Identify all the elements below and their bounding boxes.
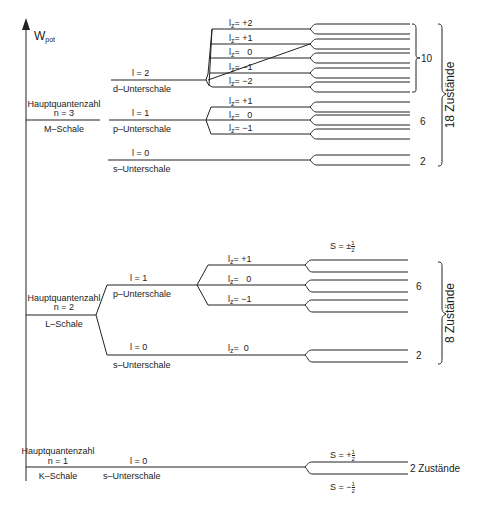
m-spin-forks: [310, 24, 410, 165]
l-p-count: 6: [416, 282, 422, 292]
bracket-d: [412, 24, 420, 92]
m-d-l: l = 2: [132, 68, 149, 78]
lz-label: lz= −1: [228, 294, 252, 307]
lz-label: lz= +1: [229, 33, 253, 46]
l-shell-n: n = 2: [16, 302, 112, 312]
lz-label: lz= −2: [229, 76, 253, 89]
m-s-name: s–Unterschale: [113, 164, 171, 174]
k-shell-name: K–Schale: [10, 471, 106, 481]
m-d-count: 10: [421, 54, 432, 64]
k-spin-down: S = −12: [330, 481, 355, 494]
l-s-l: l = 0: [130, 342, 147, 352]
lz-label: lz= +1: [228, 254, 252, 267]
l-p-l: l = 1: [130, 273, 147, 283]
m-s-count: 2: [420, 157, 426, 167]
m-d-name: d–Unterschale: [113, 84, 171, 94]
l-s-count: 2: [416, 351, 422, 361]
k-shell-title: Hauptquantenzahl: [10, 446, 106, 456]
lz-label: lz= 0: [228, 274, 251, 287]
axis-arrow-icon: [22, 18, 30, 30]
lz-label: lz= +1: [229, 96, 253, 109]
m-s-l: l = 0: [132, 148, 149, 158]
axis-label: Wpot: [34, 29, 55, 47]
lz-label: lz= 0: [228, 343, 249, 356]
l-spin-label: S = ±12: [330, 240, 355, 253]
m-shell-n: n = 3: [16, 108, 112, 118]
k-s-name: s–Unterschale: [103, 471, 161, 481]
l-s-name: s–Unterschale: [113, 360, 171, 370]
m-p-count: 6: [420, 117, 426, 127]
m-p-name: p–Unterschale: [113, 124, 171, 134]
k-shell-n: n = 1: [10, 456, 106, 466]
l-p-name: p–Unterschale: [113, 289, 171, 299]
k-spin-up: S = +12: [330, 449, 355, 462]
k-s-l: l = 0: [130, 456, 147, 466]
lz-label: lz= +2: [229, 18, 253, 31]
l-shell-name: L–Schale: [16, 319, 112, 329]
lz-label: lz= −1: [229, 123, 253, 136]
l-total: 8 Zustände: [443, 283, 457, 343]
lz-label: lz= 0: [229, 47, 252, 60]
l-spin-forks: [305, 260, 408, 362]
m-total: 18 Zustände: [443, 60, 457, 130]
lz-label: lz= 0: [229, 110, 252, 123]
m-p-l: l = 1: [132, 108, 149, 118]
lz-label: lz= −1: [229, 62, 253, 75]
k-total: 2 Zustände: [410, 464, 460, 474]
m-shell-name: M–Schale: [16, 124, 112, 134]
